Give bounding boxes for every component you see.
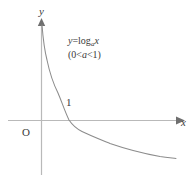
origin-label: O: [22, 127, 30, 138]
equation-log: log: [78, 35, 91, 46]
log-curve: [42, 25, 176, 159]
condition-open: (0<: [68, 49, 82, 60]
plot-area: [0, 0, 196, 192]
condition-close: <1): [87, 49, 101, 60]
x-intercept-tick-label: 1: [66, 97, 72, 108]
equation-argument: x: [94, 35, 98, 46]
y-axis-label: y: [39, 6, 44, 17]
y-axis-arrowhead: [38, 18, 45, 26]
equation-line-1: y=logax: [68, 35, 101, 49]
x-axis-label: x: [181, 117, 186, 128]
equation-line-2: (0<a<1): [68, 49, 101, 62]
log-function-figure: y x O 1 y=logax (0<a<1): [0, 0, 196, 192]
function-equation-annotation: y=logax (0<a<1): [68, 35, 101, 61]
